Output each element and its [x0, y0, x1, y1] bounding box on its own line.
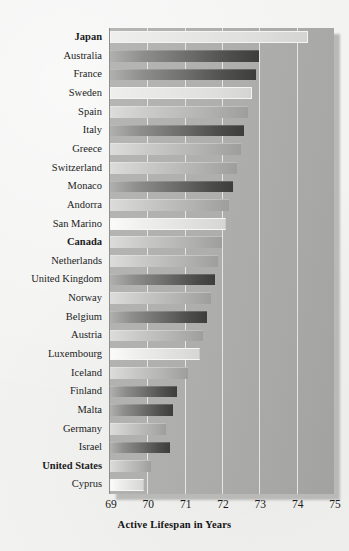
- bar: [110, 218, 226, 230]
- bar-row: [110, 65, 334, 84]
- bar: [110, 442, 170, 454]
- bar: [110, 199, 229, 211]
- bar-row: [110, 158, 334, 177]
- x-tick-label: 69: [105, 498, 117, 510]
- category-label: Canada: [67, 237, 102, 248]
- category-label: Malta: [78, 405, 103, 416]
- category-label: Australia: [64, 51, 103, 62]
- bar: [110, 330, 203, 342]
- bar: [110, 367, 188, 379]
- bar: [110, 31, 308, 43]
- bar-row: [110, 140, 334, 159]
- category-label: Spain: [78, 107, 102, 118]
- bar: [110, 236, 222, 248]
- category-label: Israel: [79, 442, 102, 453]
- bar: [110, 69, 256, 81]
- category-label: Luxembourg: [48, 349, 102, 360]
- x-tick-label: 71: [180, 498, 192, 510]
- bar-row: [110, 270, 334, 289]
- bar: [110, 423, 166, 435]
- bar-row: [110, 121, 334, 140]
- bar: [110, 87, 252, 99]
- bar-row: [110, 28, 334, 47]
- category-label: Japan: [75, 32, 102, 43]
- bar-row: [110, 196, 334, 215]
- bar: [110, 162, 237, 174]
- bar: [110, 404, 173, 416]
- bar: [110, 106, 248, 118]
- category-labels-group: JapanAustraliaFranceSwedenSpainItalyGree…: [0, 28, 106, 494]
- bar: [110, 255, 218, 267]
- x-tick-label: 75: [329, 498, 341, 510]
- bar-row: [110, 457, 334, 476]
- x-tick-label: 72: [217, 498, 229, 510]
- category-label: Andorra: [67, 200, 102, 211]
- chart-figure: JapanAustraliaFranceSwedenSpainItalyGree…: [0, 0, 349, 551]
- bar-row: [110, 419, 334, 438]
- bar: [110, 50, 259, 62]
- bar-row: [110, 308, 334, 327]
- x-tick-label: 74: [292, 498, 304, 510]
- category-label: Germany: [63, 424, 102, 435]
- category-label: United States: [42, 461, 102, 472]
- category-label: Monaco: [68, 181, 102, 192]
- bar: [110, 125, 244, 137]
- bar: [110, 479, 144, 491]
- category-label: San Marino: [53, 219, 102, 230]
- category-label: Austria: [71, 330, 102, 341]
- bar: [110, 143, 241, 155]
- bar-row: [110, 177, 334, 196]
- category-label: Sweden: [69, 88, 102, 99]
- category-label: Norway: [68, 293, 102, 304]
- bar-row: [110, 252, 334, 271]
- bar-row: [110, 233, 334, 252]
- bar: [110, 460, 151, 472]
- bar-row: [110, 364, 334, 383]
- category-label: Italy: [83, 125, 102, 136]
- category-label: Cyprus: [72, 479, 102, 490]
- bar: [110, 274, 215, 286]
- bar: [110, 386, 177, 398]
- bar-row: [110, 401, 334, 420]
- category-label: Greece: [72, 144, 102, 155]
- bar-row: [110, 47, 334, 66]
- category-label: France: [73, 69, 102, 80]
- bar: [110, 181, 233, 193]
- category-label: Belgium: [66, 312, 102, 323]
- category-label: Netherlands: [51, 256, 102, 267]
- x-axis-tick-labels: 69707172737475: [0, 498, 349, 514]
- bar-row: [110, 214, 334, 233]
- bar-row: [110, 326, 334, 345]
- bar-row: [110, 84, 334, 103]
- bar-row: [110, 382, 334, 401]
- category-label: Finland: [70, 386, 102, 397]
- x-tick-label: 70: [143, 498, 155, 510]
- bar-row: [110, 475, 334, 494]
- x-tick-label: 73: [255, 498, 267, 510]
- bar-row: [110, 345, 334, 364]
- category-label: Iceland: [71, 368, 102, 379]
- bars-group: [110, 28, 334, 494]
- bar-row: [110, 103, 334, 122]
- bar: [110, 311, 207, 323]
- category-label: United Kingdom: [31, 274, 102, 285]
- bar: [110, 348, 200, 360]
- bar-row: [110, 289, 334, 308]
- bar-row: [110, 438, 334, 457]
- x-axis-title: Active Lifespan in Years: [0, 519, 349, 530]
- category-label: Switzerland: [52, 163, 102, 174]
- bar: [110, 292, 211, 304]
